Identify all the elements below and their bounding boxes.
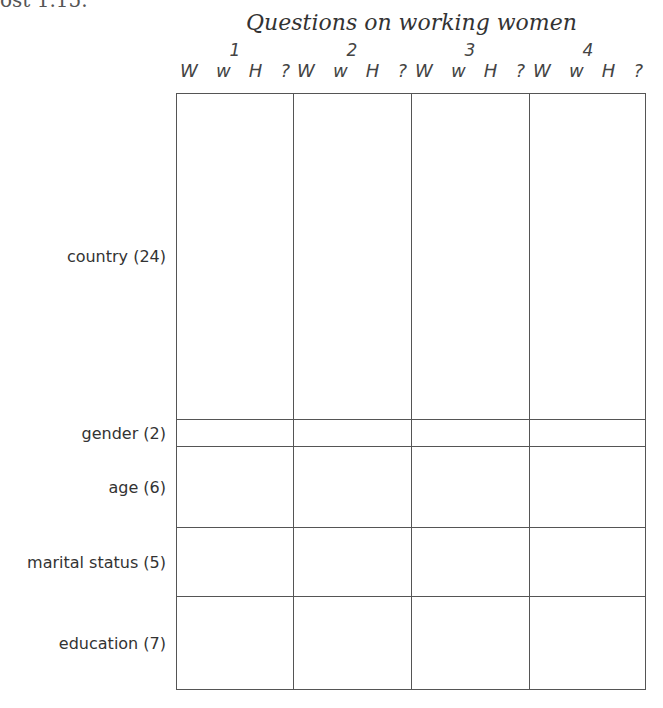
answer-codes-q3: WwH? xyxy=(411,60,529,81)
code-H: H xyxy=(484,60,498,81)
diagram-title: Questions on working women xyxy=(176,10,647,35)
code-H: H xyxy=(249,60,263,81)
code-w: w xyxy=(333,60,348,81)
row-divider xyxy=(177,596,645,597)
row-label-country: country (24) xyxy=(67,247,166,266)
code-q: ? xyxy=(280,60,290,81)
code-w: w xyxy=(569,60,584,81)
code-w: w xyxy=(451,60,466,81)
code-H: H xyxy=(602,60,616,81)
row-label-gender: gender (2) xyxy=(82,424,166,443)
code-q: ? xyxy=(397,60,407,81)
column-divider xyxy=(529,94,530,689)
column-divider xyxy=(411,94,412,689)
question-3-label: 3 xyxy=(411,40,529,60)
code-W: W xyxy=(415,60,433,81)
code-q: ? xyxy=(633,60,643,81)
answer-codes-q4: WwH? xyxy=(529,60,647,81)
code-W: W xyxy=(533,60,551,81)
row-divider xyxy=(177,527,645,528)
clipped-header-text: ost 1.15. xyxy=(0,0,88,12)
row-label-age: age (6) xyxy=(108,478,166,497)
row-label-education: education (7) xyxy=(59,634,166,653)
code-W: W xyxy=(297,60,315,81)
matrix-grid xyxy=(176,93,646,690)
code-w: w xyxy=(216,60,231,81)
code-q: ? xyxy=(515,60,525,81)
row-divider xyxy=(177,446,645,447)
question-2-label: 2 xyxy=(293,40,411,60)
question-1-label: 1 xyxy=(176,40,294,60)
row-divider xyxy=(177,419,645,420)
code-W: W xyxy=(180,60,198,81)
answer-codes-q2: WwH? xyxy=(293,60,411,81)
answer-codes-q1: WwH? xyxy=(176,60,294,81)
code-H: H xyxy=(366,60,380,81)
question-4-label: 4 xyxy=(529,40,647,60)
row-label-marital-status: marital status (5) xyxy=(27,553,166,572)
column-divider xyxy=(293,94,294,689)
